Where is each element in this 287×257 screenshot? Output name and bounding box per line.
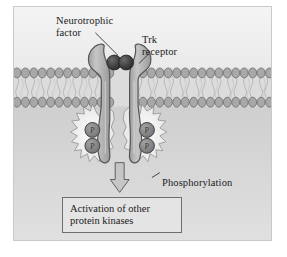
outcome-text: Activation of other protein kinases — [70, 203, 150, 228]
phosphate-right-upper: P — [140, 123, 155, 138]
svg-text:P: P — [90, 125, 95, 135]
diagram-frame: P P P P — [13, 6, 272, 241]
phosphate-left-upper: P — [85, 123, 100, 138]
svg-text:P: P — [90, 141, 95, 151]
phosphate-right-lower: P — [140, 138, 155, 153]
label-phosphorylation: Phosphorylation — [162, 177, 232, 189]
figure-root: P P P P — [0, 0, 287, 257]
label-trk-receptor: Trk receptor — [142, 34, 177, 57]
label-neurotrophic-factor: Neurotrophic factor — [56, 15, 113, 38]
svg-text:P: P — [145, 125, 150, 135]
svg-text:P: P — [145, 141, 150, 151]
outcome-box: Activation of other protein kinases — [62, 197, 182, 233]
phosphate-left-lower: P — [85, 138, 100, 153]
ligand-sphere-right — [119, 55, 134, 70]
